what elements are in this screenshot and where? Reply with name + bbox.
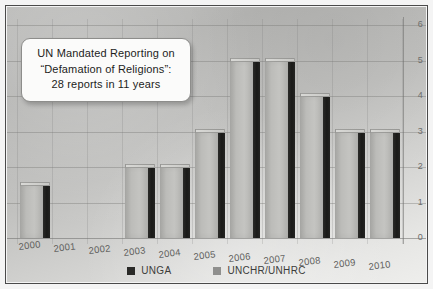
bar-top-face (195, 129, 225, 133)
legend-swatch-unga (127, 267, 135, 275)
vertical-gridline (297, 19, 298, 244)
bar-front-face (370, 131, 393, 239)
y-axis-line (403, 17, 404, 244)
y-tick-1: 1 (409, 197, 423, 207)
bar-top-face (230, 58, 260, 62)
bar-2003 (125, 167, 148, 238)
chart-figure: 0123456 20002001200220032004200520062007… (0, 0, 433, 289)
x-tick-2003: 2003 (123, 244, 146, 258)
legend-label-unga: UNGA (141, 265, 171, 276)
legend-label-unchr-unhrc: UNCHR/UNHRC (227, 265, 305, 276)
x-tick-2002: 2002 (88, 242, 111, 256)
bar-2009 (335, 132, 358, 239)
callout-line-1: UN Mandated Reporting on (28, 46, 184, 62)
bar-2007 (265, 61, 288, 239)
y-tick-5: 5 (409, 55, 423, 65)
bar-top-face (300, 93, 330, 97)
chart-legend: UNGA UNCHR/UNHRC (7, 265, 426, 276)
gridline-6 (7, 25, 426, 26)
vertical-gridline (262, 19, 263, 244)
x-tick-2001: 2001 (53, 240, 76, 254)
bar-front-face (335, 131, 358, 239)
bar-2004 (160, 167, 183, 238)
legend-item-unchr-unhrc: UNCHR/UNHRC (213, 265, 305, 276)
bar-front-face (160, 166, 183, 238)
bar-top-face (160, 164, 190, 168)
vertical-gridline (227, 19, 228, 244)
bar-side-face (218, 132, 225, 239)
bar-side-face (358, 132, 365, 239)
callout-line-2: “Defamation of Religions”: (28, 62, 184, 78)
bar-front-face (125, 166, 148, 238)
bar-2000 (20, 185, 43, 238)
y-tick-2: 2 (409, 161, 423, 171)
callout-line-3: 28 reports in 11 years (28, 77, 184, 93)
bar-front-face (300, 95, 323, 238)
bar-side-face (253, 61, 260, 239)
vertical-gridline (332, 19, 333, 244)
bar-side-face (148, 167, 155, 238)
bar-side-face (323, 96, 330, 238)
y-tick-0: 0 (409, 232, 423, 242)
x-tick-2005: 2005 (193, 248, 216, 262)
plot-area: 0123456 20002001200220032004200520062007… (7, 7, 426, 282)
bar-front-face (265, 60, 288, 239)
gridline-0 (7, 238, 426, 239)
bar-top-face (125, 164, 155, 168)
bar-front-face (230, 60, 253, 239)
bar-top-face (20, 182, 50, 186)
bar-side-face (393, 132, 400, 239)
bar-side-face (183, 167, 190, 238)
bar-2008 (300, 96, 323, 238)
vertical-gridline (17, 19, 18, 244)
y-tick-3: 3 (409, 126, 423, 136)
callout-box: UN Mandated Reporting on “Defamation of … (21, 38, 191, 102)
bar-side-face (288, 61, 295, 239)
y-tick-6: 6 (409, 19, 423, 29)
bar-top-face (335, 129, 365, 133)
bar-2010 (370, 132, 393, 239)
x-tick-2004: 2004 (158, 246, 181, 260)
bar-front-face (20, 184, 43, 238)
legend-swatch-unchr-unhrc (213, 267, 221, 275)
vertical-gridline (192, 19, 193, 244)
bar-2006 (230, 61, 253, 239)
y-tick-4: 4 (409, 90, 423, 100)
bar-top-face (370, 129, 400, 133)
vertical-gridline (367, 19, 368, 244)
x-tick-2000: 2000 (18, 238, 41, 252)
bar-side-face (43, 185, 50, 238)
bar-2005 (195, 132, 218, 239)
x-tick-2007: 2007 (263, 252, 286, 266)
x-tick-2006: 2006 (228, 250, 251, 264)
bar-front-face (195, 131, 218, 239)
legend-item-unga: UNGA (127, 265, 171, 276)
bar-top-face (265, 58, 295, 62)
